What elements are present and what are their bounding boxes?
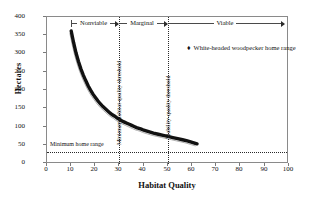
x-tick-label: 0 — [34, 166, 58, 173]
band-rule — [236, 23, 281, 24]
band-label: Marginal — [127, 20, 157, 27]
y-tick-label: 400 — [0, 13, 25, 20]
legend-label: White-headed woodpecker home range — [194, 45, 296, 52]
band-viable: Viable — [169, 19, 285, 28]
minimum-home-range-label: Minimum home range — [50, 141, 104, 147]
x-tick-label: 20 — [82, 166, 106, 173]
arrow-right-icon — [164, 21, 168, 27]
viability-quality-threshold-label: Viability-quality threshold — [165, 76, 171, 139]
plot-area: Minimum home range Minimum habitat-quali… — [46, 16, 288, 163]
min-habitat-quality-threshold-label: Minimum habitat-quality threshold — [116, 61, 122, 145]
band-rule — [120, 23, 127, 24]
band-rule — [169, 23, 214, 24]
x-tick-label: 10 — [58, 166, 82, 173]
band-nonviable: Nonviable — [71, 19, 119, 28]
y-tick-label: 50 — [0, 141, 25, 148]
x-tick-label: 100 — [276, 166, 300, 173]
minimum-home-range-line — [47, 152, 287, 153]
y-axis-title: Hectares — [14, 39, 23, 119]
x-tick-label: 90 — [252, 166, 276, 173]
x-tick-label: 60 — [179, 166, 203, 173]
y-tick-label: 0 — [0, 159, 25, 166]
legend-marker-icon: ♦ — [187, 45, 191, 52]
x-tick-label: 80 — [227, 166, 251, 173]
arrow-right-icon — [115, 21, 119, 27]
arrow-right-icon — [281, 21, 285, 27]
band-rule — [157, 23, 164, 24]
x-tick-label: 40 — [130, 166, 154, 173]
band-label: Nonviable — [77, 20, 110, 27]
legend: ♦ White-headed woodpecker home range — [187, 45, 296, 52]
x-tick-label: 50 — [155, 166, 179, 173]
x-axis-title: Habitat Quality — [46, 180, 288, 190]
band-marginal: Marginal — [120, 19, 168, 28]
chart-figure: 400 350 300 250 200 150 100 50 0 Hectare… — [0, 0, 316, 201]
y-tick-label: 350 — [0, 31, 25, 38]
series-marker-band — [71, 31, 197, 144]
x-tick-label: 70 — [203, 166, 227, 173]
y-tick-label: 100 — [0, 123, 25, 130]
x-tick-label: 30 — [106, 166, 130, 173]
band-label: Viable — [214, 20, 237, 27]
